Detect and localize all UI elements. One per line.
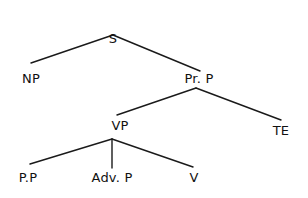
edge-vp-pp (30, 139, 112, 164)
node-vp: VP (111, 119, 128, 132)
edge-prp-te (196, 88, 281, 120)
edge-prp-vp (117, 88, 196, 115)
node-advp: Adv. P (92, 171, 133, 184)
edge-s-prp (113, 35, 200, 71)
syntax-tree-diagram (0, 0, 308, 198)
node-prp: Pr. P (185, 72, 214, 85)
node-pp: P.P (19, 171, 37, 184)
node-te: TE (273, 124, 290, 137)
node-s: S (109, 32, 117, 45)
node-v: V (189, 171, 198, 184)
node-np: NP (22, 72, 40, 85)
edge-vp-v (112, 139, 193, 167)
edge-s-np (31, 35, 113, 63)
